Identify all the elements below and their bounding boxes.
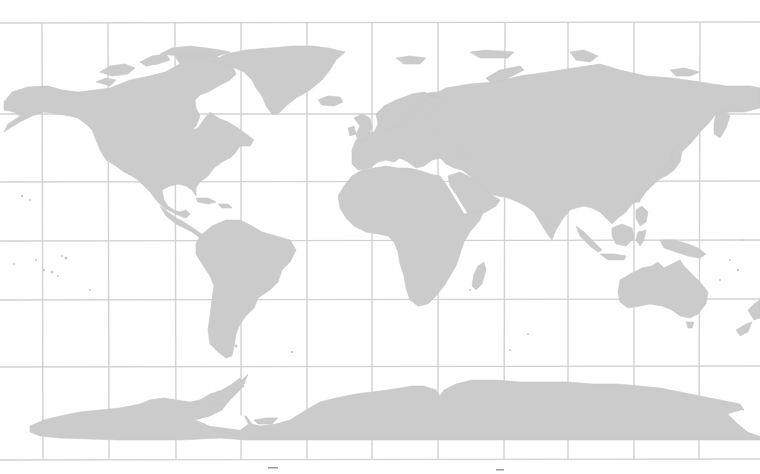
sumatra [576,226,602,252]
arctic-archipelago [96,78,116,86]
scan-artifact [496,469,504,471]
ice-shelf-island [254,418,278,424]
svalbard [396,56,426,64]
caribbean-islands [196,198,216,204]
new-siberian-islands [670,68,700,76]
world-map [0,0,760,474]
madagascar [472,262,486,290]
new-zealand [736,322,752,336]
new-zealand [748,300,760,320]
arctic-archipelago [160,46,230,56]
borneo [612,224,634,246]
grid-line-h [0,459,760,460]
philippines [636,206,648,226]
south-america [196,220,296,358]
sulawesi [636,230,646,246]
severnaya-zemlya [570,50,598,62]
kamchatka [714,110,730,138]
arctic-archipelago [100,64,135,76]
tasmania [686,322,694,328]
iceland [318,96,343,106]
antarctica [30,378,760,440]
grid-line-h [0,240,760,241]
grid-line-h [0,366,760,367]
scan-artifact [268,467,278,469]
arctic-archipelago [140,54,170,66]
franz-josef-land [470,50,514,58]
ireland [348,126,356,136]
grid-line-h [0,22,760,23]
caribbean-islands [218,204,232,208]
central-america [160,206,204,238]
java [600,254,626,260]
australia [618,260,708,318]
